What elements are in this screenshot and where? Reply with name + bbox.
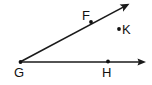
label-g: G [14, 65, 24, 80]
vertex-g-dot-icon [19, 60, 23, 64]
label-f: F [82, 8, 90, 23]
ray-gf-line [20, 7, 124, 62]
geometry-canvas: G F H K [0, 0, 152, 85]
label-k: K [122, 22, 131, 37]
geometry-diagram: G F H K [0, 0, 152, 85]
point-h-dot-icon [106, 60, 110, 64]
label-h: H [102, 65, 111, 80]
point-k-dot-icon [117, 27, 121, 31]
